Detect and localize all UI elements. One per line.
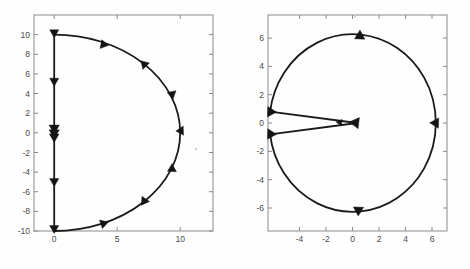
right-yticklabel-m4: -4 [256, 175, 264, 185]
left-arc-markers [97, 38, 183, 229]
left-plot-svg: 10 8 6 4 2 0 -2 -4 -6 -8 -10 [0, 0, 235, 269]
right-wedge-lower [270, 123, 357, 134]
right-xticklabel-0: 0 [350, 234, 355, 244]
left-yticklabel-6: 6 [25, 69, 30, 79]
left-yticklabel-8: 8 [25, 49, 30, 59]
left-yticklabel-2: 2 [25, 108, 30, 118]
left-xticklabel-0: 0 [52, 234, 57, 244]
left-axes-frame [34, 15, 213, 231]
left-y-ticks [34, 35, 213, 231]
right-yticklabel-6: 6 [259, 33, 264, 43]
right-xticklabel-m2: -2 [322, 234, 330, 244]
right-xticklabel-6: 6 [430, 234, 435, 244]
left-yticklabel-m2: -2 [22, 148, 30, 158]
left-yticklabel-m8: -8 [22, 206, 30, 216]
left-xticklabel-10: 10 [175, 234, 185, 244]
right-plot-svg: 6 4 2 0 -2 -4 -6 [235, 0, 470, 269]
left-semicircle-arc [54, 35, 180, 231]
right-yticklabel-2: 2 [259, 90, 264, 100]
right-yticklabel-m2: -2 [256, 146, 264, 156]
left-y-ticklabels: 10 8 6 4 2 0 -2 -4 -6 -8 -10 [18, 30, 31, 236]
right-x-ticklabels: -4 -2 0 2 4 6 [296, 234, 435, 244]
right-yticklabel-0: 0 [259, 118, 264, 128]
left-yticklabel-4: 4 [25, 89, 30, 99]
right-y-ticklabels: 6 4 2 0 -2 -4 -6 [256, 33, 264, 213]
right-xticklabel-2: 2 [377, 234, 382, 244]
left-yticklabel-0: 0 [25, 128, 30, 138]
image-speck [354, 16, 356, 18]
image-speck [195, 148, 198, 151]
right-xticklabel-4: 4 [403, 234, 408, 244]
right-x-ticks [300, 15, 433, 231]
left-yticklabel-m10: -10 [18, 226, 31, 236]
right-yticklabel-4: 4 [259, 61, 264, 71]
left-yticklabel-10: 10 [21, 30, 31, 40]
left-x-ticklabels: 0 5 10 [52, 234, 185, 244]
right-yticklabel-m6: -6 [256, 203, 264, 213]
figure-canvas: 10 8 6 4 2 0 -2 -4 -6 -8 -10 [0, 0, 470, 269]
left-xticklabel-5: 5 [115, 234, 120, 244]
right-xticklabel-m4: -4 [296, 234, 304, 244]
chart-panel-right: 6 4 2 0 -2 -4 -6 [235, 0, 470, 269]
left-yticklabel-m6: -6 [22, 187, 30, 197]
chart-panel-left: 10 8 6 4 2 0 -2 -4 -6 -8 -10 [0, 0, 235, 269]
left-yticklabel-m4: -4 [22, 167, 30, 177]
right-wedge-upper [270, 112, 357, 123]
